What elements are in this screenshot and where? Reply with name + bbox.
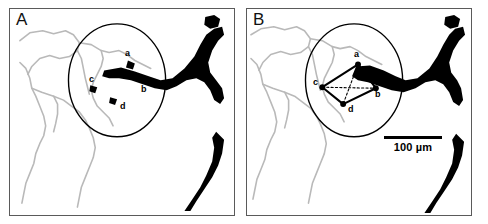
venule-bottom-a xyxy=(184,132,224,211)
capillary-network-a xyxy=(20,31,151,207)
panel-b-node-label-a: a xyxy=(354,50,359,59)
panel-a-node-label-d: d xyxy=(120,102,126,111)
point-d-marker xyxy=(109,97,117,105)
panel-b: B a b c d 100 µm xyxy=(246,8,472,216)
connection-c-b xyxy=(322,87,376,88)
panel-a-node-label-b: b xyxy=(141,85,147,94)
scalebar-label: 100 µm xyxy=(368,141,458,153)
panel-b-node-label-b: b xyxy=(375,90,381,99)
panel-b-node-label-c: c xyxy=(313,78,318,87)
arteriole-trunk-a xyxy=(102,15,224,104)
figure-root: A a b c d xyxy=(0,0,488,224)
point-d-marker xyxy=(340,101,346,107)
point-a-marker xyxy=(355,61,361,67)
panel-a-letter: A xyxy=(16,11,27,28)
point-c-marker xyxy=(319,84,325,90)
panel-a-node-label-a: a xyxy=(125,49,130,58)
point-a-marker xyxy=(126,61,135,70)
panel-b-letter: B xyxy=(253,11,264,28)
panel-b-node-label-d: d xyxy=(348,105,354,114)
panel-a: A a b c d xyxy=(9,8,235,216)
scalebar: 100 µm xyxy=(368,136,458,153)
point-c-marker xyxy=(89,85,97,93)
measurement-points-a xyxy=(89,61,135,106)
panel-a-canvas xyxy=(10,9,234,215)
panel-a-node-label-c: c xyxy=(89,75,94,84)
scalebar-line xyxy=(384,136,442,139)
panel-b-canvas xyxy=(247,9,471,215)
